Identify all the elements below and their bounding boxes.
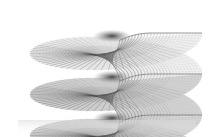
figure-root: Grayscale wireframe rendering of a three… [0,0,211,137]
baseline-haze [18,120,196,135]
riemann-surface-plot [0,0,211,137]
vortex-shadow [93,30,131,43]
vortex-shadow [93,71,131,84]
